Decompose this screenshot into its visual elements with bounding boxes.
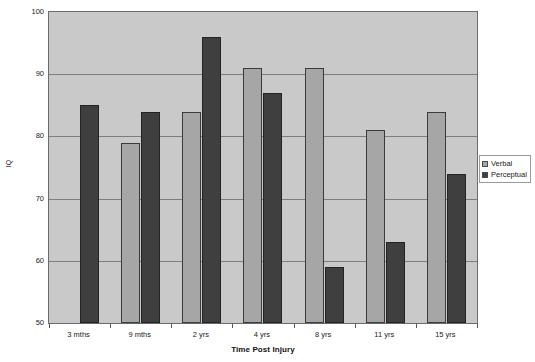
bar-verbal-15-yrs: [427, 112, 446, 323]
plot-area: [48, 11, 478, 324]
bar-group: [355, 12, 416, 323]
x-tick-mark-2: [171, 324, 172, 328]
y-tick-label-80: 80: [16, 132, 44, 140]
bar-group: [416, 12, 477, 323]
x-axis-tick-labels: 3 mths9 mths2 yrs4 yrs8 yrs11 yrs15 yrs: [48, 330, 478, 342]
x-tick-mark-3: [232, 324, 233, 328]
bar-group: [294, 12, 355, 323]
x-tick-label-2-yrs: 2 yrs: [170, 330, 231, 340]
x-tick-label-3-mths: 3 mths: [48, 330, 109, 340]
y-tick-label-70: 70: [16, 195, 44, 203]
x-tick-label-8-yrs: 8 yrs: [293, 330, 354, 340]
x-tick-mark-7: [477, 324, 478, 328]
bar-perceptual-11-yrs: [386, 242, 405, 323]
legend-swatch-perceptual-icon: [482, 172, 488, 178]
bar-perceptual-8-yrs: [325, 267, 344, 323]
bar-group: [232, 12, 293, 323]
bar-verbal-9-mths: [121, 143, 140, 323]
legend: Verbal Perceptual: [479, 155, 531, 183]
x-axis-title: Time Post Injury: [48, 345, 478, 354]
x-tick-label-11-yrs: 11 yrs: [354, 330, 415, 340]
legend-item-perceptual: Perceptual: [482, 169, 527, 180]
x-tick-mark-1: [110, 324, 111, 328]
x-tick-mark-6: [416, 324, 417, 328]
bar-perceptual-3-mths: [80, 105, 99, 323]
bar-perceptual-4-yrs: [263, 93, 282, 323]
iq-by-time-post-injury-bar-chart: IQ 5060708090100 3 mths9 mths2 yrs4 yrs8…: [0, 0, 535, 362]
bars-layer: [49, 12, 477, 323]
bar-group: [171, 12, 232, 323]
bar-verbal-4-yrs: [243, 68, 262, 323]
bar-perceptual-2-yrs: [202, 37, 221, 323]
y-tick-label-90: 90: [16, 70, 44, 78]
legend-label-perceptual: Perceptual: [491, 170, 527, 179]
x-tick-label-4-yrs: 4 yrs: [231, 330, 292, 340]
y-tick-label-100: 100: [16, 8, 44, 16]
x-tick-label-9-mths: 9 mths: [109, 330, 170, 340]
x-tick-mark-5: [355, 324, 356, 328]
y-tick-label-60: 60: [16, 257, 44, 265]
bar-perceptual-15-yrs: [447, 174, 466, 323]
bar-verbal-8-yrs: [305, 68, 324, 323]
legend-item-verbal: Verbal: [482, 158, 527, 169]
y-tick-label-50: 50: [16, 319, 44, 327]
legend-label-verbal: Verbal: [491, 159, 512, 168]
bar-perceptual-9-mths: [141, 112, 160, 323]
x-tick-label-15-yrs: 15 yrs: [415, 330, 476, 340]
y-axis-title: IQ: [5, 144, 12, 184]
legend-swatch-verbal-icon: [482, 161, 488, 167]
y-axis-tick-labels: 5060708090100: [16, 11, 44, 324]
bar-group: [49, 12, 110, 323]
x-tick-mark-0: [49, 324, 50, 328]
x-axis-tick-marks: [48, 324, 478, 329]
bar-group: [110, 12, 171, 323]
x-tick-mark-4: [294, 324, 295, 328]
bar-verbal-11-yrs: [366, 130, 385, 323]
bar-verbal-2-yrs: [182, 112, 201, 323]
